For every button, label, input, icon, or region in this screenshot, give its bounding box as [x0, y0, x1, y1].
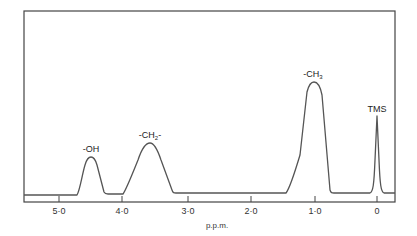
tick-label-5: 5·0	[52, 206, 65, 216]
plot-frame	[24, 11, 395, 202]
nmr-spectrum-chart: 5·0 4·0 3·0 2·0 1·0 0 p.p.m. -OH -CH2- -…	[0, 0, 417, 236]
peak-label-oh: -OH	[83, 144, 100, 154]
tick-label-3: 3·0	[181, 206, 194, 216]
peak-label-ch2: -CH2-	[139, 130, 161, 141]
tick-label-4: 4·0	[115, 206, 128, 216]
peak-label-tms: TMS	[368, 104, 387, 114]
x-axis-tick-labels: 5·0 4·0 3·0 2·0 1·0 0	[52, 206, 379, 216]
peak-label-ch3: -CH3	[303, 69, 323, 80]
tick-label-0: 0	[374, 206, 379, 216]
x-axis-ticks	[59, 196, 377, 202]
tick-label-1: 1·0	[308, 206, 321, 216]
tick-label-2: 2·0	[244, 206, 257, 216]
spectrum-trace	[24, 82, 395, 195]
x-axis-title: p.p.m.	[206, 221, 228, 230]
